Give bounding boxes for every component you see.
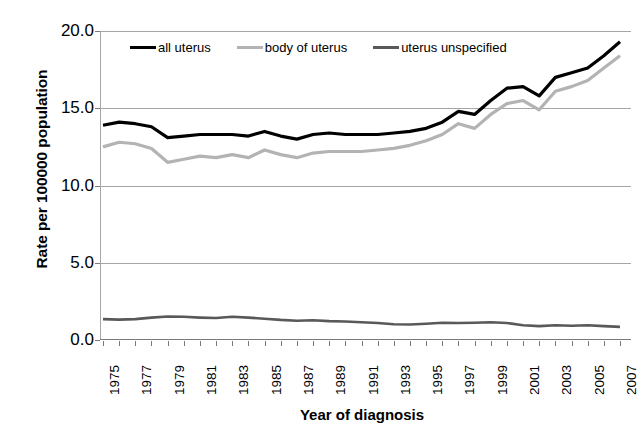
series-line — [103, 317, 620, 327]
x-tick-mark — [135, 341, 136, 346]
y-tick-label: 0.0 — [42, 331, 94, 348]
x-tick-label: 2001 — [528, 365, 542, 395]
x-tick-mark — [410, 341, 411, 346]
x-tick-mark — [297, 341, 298, 346]
y-tick-mark — [95, 186, 100, 187]
legend-item-body-of-uterus: body of uterus — [237, 40, 347, 55]
x-tick-label: 1991 — [367, 365, 381, 395]
x-tick-label: 1993 — [399, 365, 413, 395]
x-tick-mark — [281, 341, 282, 346]
series-lines — [100, 31, 631, 340]
x-tick-mark — [491, 341, 492, 346]
series-line — [103, 56, 620, 163]
x-tick-label: 1995 — [431, 365, 445, 395]
x-tick-label: 2003 — [560, 365, 574, 395]
x-tick-mark — [232, 341, 233, 346]
x-tick-mark — [475, 341, 476, 346]
x-tick-mark — [378, 341, 379, 346]
x-tick-mark — [265, 341, 266, 346]
y-axis-ticks: 0.05.010.015.020.0 — [40, 0, 94, 448]
legend-swatch-uterus-unspecified — [373, 46, 399, 49]
legend-swatch-body-of-uterus — [237, 46, 263, 49]
chart-legend: all uterus body of uterus uterus unspeci… — [130, 40, 507, 55]
x-axis-title: Year of diagnosis — [0, 406, 644, 423]
y-tick-mark — [95, 108, 100, 109]
y-tick-mark — [95, 263, 100, 264]
y-tick-mark — [95, 340, 100, 341]
y-tick-label: 5.0 — [42, 254, 94, 271]
legend-label-all-uterus: all uterus — [158, 40, 211, 55]
x-tick-mark — [362, 341, 363, 346]
y-tick-label: 10.0 — [42, 177, 94, 194]
legend-swatch-all-uterus — [130, 46, 156, 49]
y-tick-mark — [95, 31, 100, 32]
x-tick-mark — [572, 341, 573, 346]
x-tick-mark — [523, 341, 524, 346]
y-tick-label: 15.0 — [42, 99, 94, 116]
x-tick-mark — [184, 341, 185, 346]
x-tick-label: 1985 — [270, 365, 284, 395]
x-tick-mark — [620, 341, 621, 346]
legend-label-uterus-unspecified: uterus unspecified — [401, 40, 507, 55]
plot-area — [100, 31, 631, 340]
x-tick-mark — [345, 341, 346, 346]
x-tick-label: 1999 — [496, 365, 510, 395]
x-tick-mark — [458, 341, 459, 346]
x-tick-label: 1983 — [237, 365, 251, 395]
x-tick-mark — [394, 341, 395, 346]
x-tick-mark — [507, 341, 508, 346]
legend-item-uterus-unspecified: uterus unspecified — [373, 40, 507, 55]
x-tick-label: 1977 — [140, 365, 154, 395]
x-tick-label: 1989 — [334, 365, 348, 395]
x-tick-mark — [588, 341, 589, 346]
legend-label-body-of-uterus: body of uterus — [265, 40, 347, 55]
x-tick-mark — [103, 341, 104, 346]
x-tick-mark — [604, 341, 605, 346]
x-tick-label: 1987 — [302, 365, 316, 395]
x-tick-label: 1979 — [173, 365, 187, 395]
chart-figure: Rate per 100000 population 0.05.010.015.… — [0, 0, 644, 448]
x-tick-mark — [248, 341, 249, 346]
x-tick-label: 1975 — [108, 365, 122, 395]
x-tick-label: 2007 — [625, 365, 639, 395]
x-tick-mark — [442, 341, 443, 346]
x-tick-mark — [539, 341, 540, 346]
legend-item-all-uterus: all uterus — [130, 40, 211, 55]
x-tick-label: 1997 — [463, 365, 477, 395]
x-tick-mark — [216, 341, 217, 346]
x-tick-mark — [119, 341, 120, 346]
x-tick-mark — [168, 341, 169, 346]
y-tick-label: 20.0 — [42, 22, 94, 39]
x-tick-mark — [200, 341, 201, 346]
x-axis-ticks: 1975197719791981198319851987198919911993… — [100, 341, 631, 403]
series-line — [103, 42, 620, 139]
x-tick-label: 2005 — [593, 365, 607, 395]
x-tick-mark — [329, 341, 330, 346]
x-tick-mark — [426, 341, 427, 346]
x-tick-mark — [555, 341, 556, 346]
x-tick-mark — [313, 341, 314, 346]
x-tick-label: 1981 — [205, 365, 219, 395]
x-tick-mark — [151, 341, 152, 346]
